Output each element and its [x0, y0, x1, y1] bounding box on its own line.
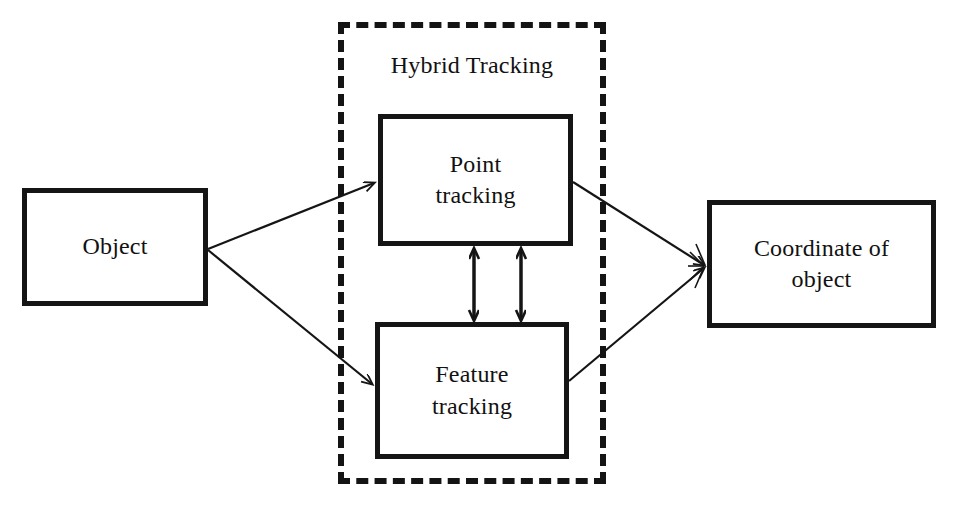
node-coordinate-of-object-label: Coordinate of object: [754, 233, 889, 295]
edge-junction-marks: [688, 244, 705, 288]
edge-object-to-feature: [208, 250, 372, 384]
node-coordinate-of-object[interactable]: Coordinate of object: [707, 200, 936, 328]
node-object-label: Object: [82, 231, 147, 262]
edge-point-to-coordinate: [573, 182, 704, 265]
node-feature-tracking-label: Feature tracking: [432, 359, 512, 421]
node-point-tracking-label: Point tracking: [435, 149, 515, 211]
node-object[interactable]: Object: [22, 188, 208, 306]
node-feature-tracking[interactable]: Feature tracking: [375, 322, 569, 459]
edge-object-to-point: [208, 183, 374, 249]
node-point-tracking[interactable]: Point tracking: [378, 114, 573, 246]
diagram-canvas: Hybrid Tracking: [0, 0, 956, 512]
edge-feature-to-coordinate: [569, 268, 704, 381]
